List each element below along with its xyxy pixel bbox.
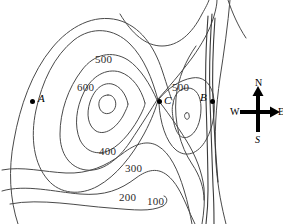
contour-upper-middle — [120, 0, 209, 46]
contour-label-400: 400 — [99, 146, 116, 157]
contour-label-300: 300 — [125, 163, 142, 174]
point-marker-b — [210, 99, 215, 104]
contour-summit-east — [185, 113, 190, 120]
contour-label-600-west: 600 — [77, 82, 94, 93]
compass-north-label: N — [255, 78, 262, 88]
contour-100 — [10, 196, 167, 210]
point-label-b: B — [200, 92, 207, 103]
contour-summit-west — [99, 95, 116, 114]
compass-east-label: E — [278, 107, 283, 117]
compass-south-label: S — [255, 135, 260, 145]
contour-far-right — [215, 0, 230, 224]
point-label-c: C — [164, 95, 171, 106]
contour-300 — [2, 143, 192, 224]
contour-label-100: 100 — [147, 196, 164, 207]
contour-upper-right-arc — [228, 0, 246, 38]
contour-label-200: 200 — [119, 192, 136, 203]
point-label-a: A — [38, 93, 45, 104]
compass-west-label: W — [230, 107, 239, 117]
cliff-line-1 — [206, 16, 208, 224]
contour-saddle-lower-right — [158, 100, 204, 224]
contour-outer-west — [11, 18, 172, 224]
compass-rose: N S W E — [234, 78, 283, 146]
point-marker-c — [157, 99, 162, 104]
point-marker-a — [30, 99, 35, 104]
contour-label-500-west: 500 — [95, 54, 112, 65]
contour-label-500-east: 500 — [172, 82, 189, 93]
contour-map: 500 600 500 400 300 200 100 A C B N S W … — [0, 0, 283, 224]
